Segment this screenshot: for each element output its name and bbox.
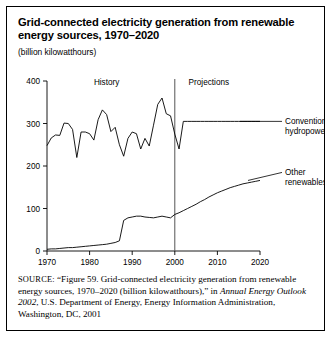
projections-annotation: Projections [189,78,230,87]
source-text-part2: , U.S. Department of Energy, Energy Info… [18,297,275,319]
x-tick-label-2010: 2010 [208,258,227,267]
series-line-other-renewables [47,180,260,249]
x-tick-label-2020: 2020 [251,258,270,267]
y-tick-label-300: 300 [26,120,40,129]
source-kicker: SOURCE: [18,275,55,284]
figure-title: Grid-connected electricity generation fr… [18,16,310,43]
x-axis-ticks: 197019801990200020102020 [38,251,270,267]
x-tick-label-1970: 1970 [38,258,57,267]
callout-label-hydropower-line2: hydropower [285,127,324,136]
history-annotation: History [94,78,120,87]
callout-label-other-renewables-line2: renewables [285,178,324,187]
y-tick-label-400: 400 [26,77,40,86]
x-tick-label-1990: 1990 [123,258,142,267]
figure-frame: Grid-connected electricity generation fr… [6,6,325,331]
y-tick-label-100: 100 [26,205,40,214]
callout-label-other-renewables-line1: Other [285,168,306,177]
y-tick-label-0: 0 [35,247,40,256]
callout-label-hydropower-line1: Conventional [285,117,324,126]
chart-plot-area: 0100200300400 197019801990200020102020 H… [7,59,324,269]
callout-leader-other-renewables [248,172,282,180]
y-tick-label-200: 200 [26,162,40,171]
y-axis-ticks: 0100200300400 [26,77,47,256]
source-note: SOURCE: “Figure 59. Grid-connected elect… [18,274,313,320]
x-tick-label-1980: 1980 [80,258,99,267]
line-chart-svg: 0100200300400 197019801990200020102020 H… [7,59,324,269]
x-tick-label-2000: 2000 [166,258,185,267]
chart-axes [47,81,260,251]
figure-units-label: (billion kilowatthours) [18,47,96,57]
series-line-conventional-hydropower [47,98,260,158]
